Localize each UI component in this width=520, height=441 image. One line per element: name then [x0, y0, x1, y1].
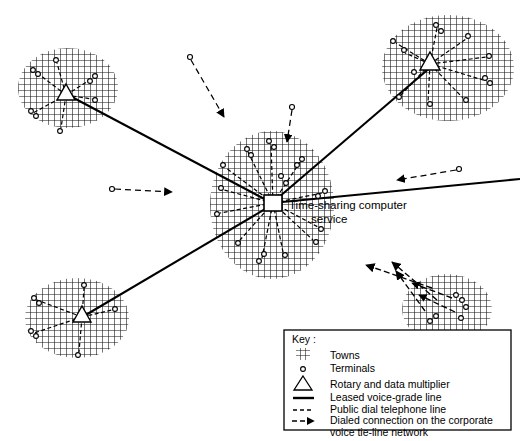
- terminal: [316, 194, 321, 199]
- time-sharing-hub-square: [264, 195, 282, 211]
- legend-label-towns: Towns: [330, 349, 360, 361]
- terminal: [245, 147, 250, 152]
- legend-label-leased: Leased voice-grade line: [330, 391, 442, 403]
- dial-arrow-left: [115, 189, 172, 192]
- dial-arrow-top: [191, 60, 224, 117]
- legend-label-dialed-line2: voice tie-line network: [330, 426, 429, 438]
- terminal: [93, 74, 98, 79]
- terminal: [464, 305, 469, 310]
- terminal: [272, 145, 277, 150]
- terminal: [257, 259, 262, 264]
- terminal: [283, 253, 288, 258]
- legend-label-terminals: Terminals: [330, 362, 375, 374]
- diagram-canvas: Time-sharing computer service Key : Town…: [0, 0, 520, 441]
- terminal: [434, 314, 439, 319]
- terminal: [457, 167, 462, 172]
- dial-arrow-right: [397, 170, 456, 180]
- leased-center-to-topright: [272, 66, 432, 203]
- terminal: [29, 109, 34, 114]
- terminal: [82, 283, 87, 288]
- terminal: [391, 39, 396, 44]
- network-diagram: Time-sharing computer service Key : Town…: [0, 0, 520, 441]
- terminal: [29, 329, 34, 334]
- terminal: [32, 296, 37, 301]
- terminal: [88, 79, 93, 84]
- terminal: [487, 54, 492, 59]
- terminal: [483, 76, 488, 81]
- terminal: [428, 319, 433, 324]
- terminal: [34, 114, 39, 119]
- legend-small-circle-icon: [301, 367, 306, 372]
- terminal: [290, 105, 295, 110]
- terminal: [267, 139, 272, 144]
- terminal: [314, 240, 319, 245]
- terminal: [434, 23, 439, 28]
- terminal: [428, 102, 433, 107]
- terminal: [110, 187, 115, 192]
- terminal: [93, 98, 98, 103]
- hub-label-line2: service: [311, 213, 347, 225]
- legend-heading: Key :: [292, 333, 316, 345]
- terminal: [76, 353, 81, 358]
- terminal: [488, 81, 493, 86]
- terminal: [215, 212, 220, 217]
- terminal: [249, 153, 254, 158]
- legend-label-dialed-line1: Dialed connection on the corporate: [330, 414, 493, 426]
- terminal: [300, 157, 305, 162]
- legend-label-rotary: Rotary and data multiplier: [330, 378, 450, 390]
- legend-box: Key : Towns Terminals Rotary and data mu…: [284, 330, 511, 438]
- terminal: [402, 48, 407, 53]
- terminal: [58, 129, 63, 134]
- terminal: [323, 189, 328, 194]
- terminal: [219, 186, 224, 191]
- terminal: [412, 70, 417, 75]
- terminal: [279, 174, 284, 179]
- legend-crosshatch-swatch: [296, 348, 310, 360]
- terminal: [459, 316, 464, 321]
- terminal: [454, 293, 459, 298]
- terminal: [36, 72, 41, 77]
- hub-label-line1: Time-sharing computer: [289, 199, 407, 211]
- terminal: [284, 181, 289, 186]
- terminal: [31, 68, 36, 73]
- terminal: [37, 301, 42, 306]
- terminal: [34, 334, 39, 339]
- terminal: [262, 252, 267, 257]
- terminal: [188, 55, 193, 60]
- terminal: [113, 307, 118, 312]
- terminal: [236, 241, 241, 246]
- terminal: [397, 95, 402, 100]
- terminal: [466, 34, 471, 39]
- terminal: [464, 98, 469, 103]
- terminal: [460, 298, 465, 303]
- terminal: [54, 58, 59, 63]
- town-top-right: [382, 15, 514, 121]
- terminal: [319, 227, 324, 232]
- terminal: [295, 163, 300, 168]
- terminal: [439, 29, 444, 34]
- terminal: [221, 163, 226, 168]
